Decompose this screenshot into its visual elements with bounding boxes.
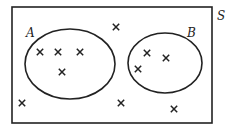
element-cross-icon [37,49,43,55]
element-cross-icon [77,49,83,55]
set-a-ellipse [25,29,115,99]
element-cross-icon [163,55,169,61]
element-cross-icon [55,49,61,55]
element-cross-icon [19,100,25,106]
venn-diagram: S A B [0,0,229,128]
element-cross-icon [144,50,150,56]
element-cross-icon [135,66,141,72]
universe-rectangle [12,7,212,123]
element-cross-icon [118,100,124,106]
element-cross-icon [113,24,119,30]
set-b-ellipse [128,33,202,93]
element-cross-icon [171,106,177,112]
universe-label: S [217,9,225,23]
set-a-label: A [25,26,35,40]
element-cross-icon [59,69,65,75]
set-b-label: B [186,26,196,40]
